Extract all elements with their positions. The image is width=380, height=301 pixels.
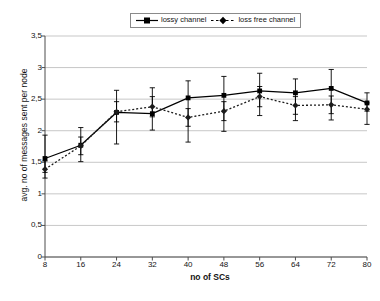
- y-tick-label: 2: [12, 126, 42, 135]
- x-tick-label: 56: [240, 260, 280, 269]
- series-lossy-channel: [42, 69, 369, 172]
- y-tick-label: 1,5: [12, 157, 42, 166]
- figure-caption-clipped: [8, 292, 372, 301]
- y-axis-ticks: 00,511,522,533,5: [10, 0, 42, 301]
- x-tick-label: 80: [347, 260, 380, 269]
- x-tick-label: 8: [25, 260, 65, 269]
- x-tick-label: 72: [311, 260, 351, 269]
- x-tick-label: 40: [168, 260, 208, 269]
- chart-figure: lossy channel loss free channel avg. no …: [0, 0, 380, 301]
- x-tick-label: 48: [204, 260, 244, 269]
- y-tick-label: 3,5: [12, 31, 42, 40]
- plot-area: [0, 0, 380, 301]
- series-loss-free-channel: [42, 87, 370, 179]
- y-tick-label: 3: [12, 63, 42, 72]
- x-tick-label: 16: [61, 260, 101, 269]
- y-tick-label: 1: [12, 189, 42, 198]
- x-tick-label: 32: [132, 260, 172, 269]
- x-tick-label: 64: [275, 260, 315, 269]
- y-tick-label: 2,5: [12, 94, 42, 103]
- x-tick-label: 24: [97, 260, 137, 269]
- y-tick-label: 0,5: [12, 220, 42, 229]
